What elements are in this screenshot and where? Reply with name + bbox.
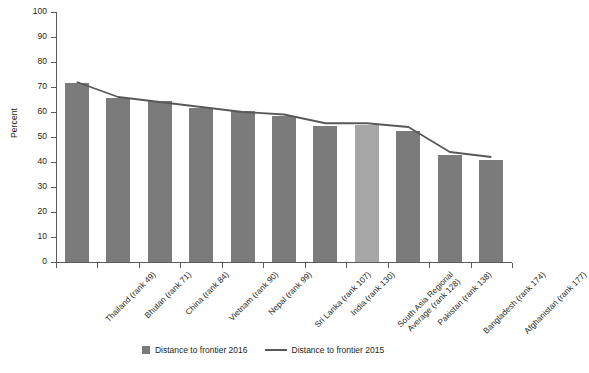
- x-axis-tick: [97, 263, 98, 268]
- x-axis-tick: [305, 263, 306, 268]
- legend-label-2015: Distance to frontier 2015: [292, 345, 385, 355]
- y-axis-tick-label: 10: [38, 231, 47, 241]
- x-axis-tick: [512, 263, 513, 268]
- x-axis-tick: [263, 263, 264, 268]
- legend-square-swatch-icon: [142, 346, 150, 354]
- y-axis-tick-label: 40: [38, 156, 47, 166]
- y-axis-tick-label: 20: [38, 206, 47, 216]
- legend-entry-line: Distance to frontier 2015: [265, 345, 385, 355]
- legend-line-swatch-icon: [265, 349, 287, 351]
- x-axis-tick: [56, 263, 57, 268]
- x-axis-tick: [222, 263, 223, 268]
- x-axis-tick: [180, 263, 181, 268]
- chart-legend: Distance to frontier 2016 Distance to fr…: [0, 345, 526, 355]
- plot-area: 0102030405060708090100: [56, 12, 512, 262]
- y-axis-tick-label: 80: [38, 56, 47, 66]
- x-axis-tick: [139, 263, 140, 268]
- x-axis-category-label: India (rank 130): [349, 270, 397, 318]
- x-axis-tick: [429, 263, 430, 268]
- y-axis-tick-label: 100: [33, 6, 47, 16]
- x-axis-tick: [346, 263, 347, 268]
- legend-entry-bars: Distance to frontier 2016: [142, 345, 248, 355]
- y-axis-tick-label: 0: [42, 256, 47, 266]
- x-axis-tick: [388, 263, 389, 268]
- x-axis-tick: [471, 263, 472, 268]
- y-axis-title: Percent: [9, 93, 19, 153]
- y-axis-tick-label: 90: [38, 31, 47, 41]
- line-series: [56, 12, 512, 263]
- y-axis-tick-label: 30: [38, 181, 47, 191]
- legend-label-2016: Distance to frontier 2016: [155, 345, 248, 355]
- line-path: [77, 82, 492, 157]
- y-axis-tick-label: 50: [38, 131, 47, 141]
- y-axis-tick-label: 70: [38, 81, 47, 91]
- y-axis-tick-label: 60: [38, 106, 47, 116]
